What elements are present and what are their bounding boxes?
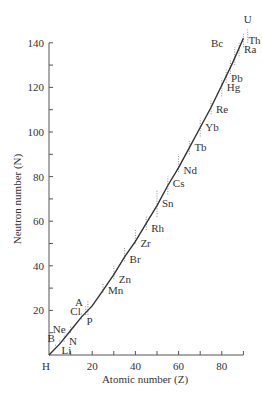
element-label-zn: Zn (119, 273, 132, 285)
element-label-yb: Yb (205, 121, 219, 133)
element-label-n: N (69, 335, 77, 347)
element-label-sn: Sn (162, 197, 174, 209)
element-label-nd: Nd (184, 164, 198, 176)
y-tick-label: 80 (33, 171, 45, 183)
element-label-bc: Bc (211, 37, 223, 49)
element-label-zr: Zr (140, 237, 151, 249)
x-tick-label: 60 (173, 360, 185, 372)
neutron-vs-atomic-number-chart: 20406080100120140H20406080 LiBNNePClAMnZ… (0, 0, 262, 400)
y-tick-label: 140 (28, 37, 45, 49)
element-label-a: A (75, 296, 83, 308)
element-label-rh: Rh (151, 222, 164, 234)
y-tick-label: 60 (33, 215, 45, 227)
isotope-range-markers (55, 29, 247, 348)
x-tick-label: H (42, 360, 50, 372)
element-label-br: Br (130, 253, 141, 265)
element-label-tb: Tb (194, 141, 207, 153)
y-axis-label: Neutron number (N) (11, 153, 24, 244)
element-label-pb: Pb (231, 72, 243, 84)
element-label-mn: Mn (108, 284, 124, 296)
element-label-u: U (244, 13, 252, 25)
y-tick-label: 120 (28, 81, 45, 93)
y-tick-label: 100 (28, 126, 45, 138)
y-tick-label: 20 (33, 304, 45, 316)
element-label-cs: Cs (173, 177, 185, 189)
y-tick-label: 40 (33, 260, 45, 272)
x-tick-label: 40 (130, 360, 142, 372)
element-label-th: Th (248, 34, 261, 46)
x-tick-label: 80 (216, 360, 228, 372)
x-axis-label: Atomic number (Z) (102, 373, 188, 386)
x-tick-label: 20 (87, 360, 99, 372)
element-labels: LiBNNePClAMnZnBrZrRhSnCsNdTbYbReHgPbRaTh… (47, 13, 261, 356)
element-label-p: P (86, 315, 92, 327)
element-label-ne: Ne (53, 323, 66, 335)
element-label-re: Re (216, 103, 228, 115)
